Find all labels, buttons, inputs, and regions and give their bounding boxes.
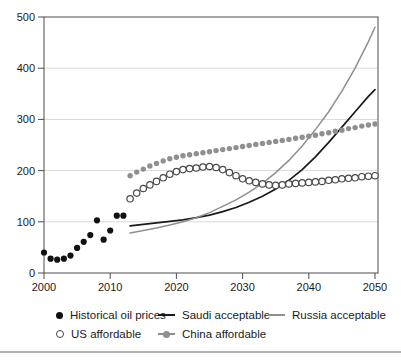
y-tick-label: 200 (17, 165, 35, 177)
y-tick-label: 100 (17, 216, 35, 228)
legend-item-saudi: Saudi acceptable (158, 309, 270, 321)
y-tick-label: 300 (17, 113, 35, 125)
us-open-circle-icon (56, 330, 64, 338)
legend-label-historical: Historical oil prices (70, 309, 166, 321)
historical-oil-prices-dots (41, 213, 127, 263)
china-affordable-dots (127, 121, 377, 178)
y-tick-label: 0 (29, 267, 35, 279)
y-tick-label: 400 (17, 62, 35, 74)
saudi-acceptable-line (130, 90, 375, 226)
legend-item-historical: Historical oil prices (56, 309, 166, 321)
plot-frame (44, 17, 378, 273)
legend-item-china: China affordable (158, 328, 266, 340)
x-tick-label: 2050 (363, 281, 387, 293)
legend-label-russia: Russia acceptable (292, 309, 386, 321)
legend-label-saudi: Saudi acceptable (182, 309, 270, 321)
x-tick-label: 2040 (297, 281, 321, 293)
y-tick-label: 500 (17, 11, 35, 23)
legend-label-china: China affordable (182, 328, 266, 340)
legend-label-us: US affordable (71, 328, 141, 340)
x-tick-label: 2030 (230, 281, 254, 293)
gridlines (44, 68, 378, 222)
oil-price-chart-figure: 0100200300400500200020102020203020402050… (0, 0, 401, 360)
historical-dot-icon (56, 312, 63, 319)
us-affordable-dots (127, 163, 378, 202)
saudi-line-icon (158, 314, 175, 316)
china-line-dot-icon (158, 333, 175, 335)
x-tick-label: 2020 (164, 281, 188, 293)
bottom-divider (0, 351, 401, 353)
legend-item-us: US affordable (56, 328, 141, 340)
legend-item-russia: Russia acceptable (268, 309, 386, 321)
x-tick-label: 2010 (98, 281, 122, 293)
russia-line-icon (268, 314, 285, 316)
price-chart-svg: 0100200300400500200020102020203020402050 (0, 0, 401, 360)
x-tick-label: 2000 (32, 281, 56, 293)
